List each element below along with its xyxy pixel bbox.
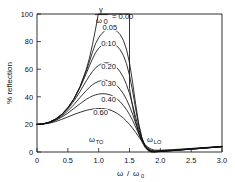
- x-tick-label: 2.0: [155, 156, 165, 165]
- y-axis-ticks: [37, 14, 41, 152]
- x-axis-tick-labels: 00.51.01.52.02.53.0: [35, 156, 227, 165]
- x-tick-label: 3.0: [217, 156, 227, 165]
- omega-to-symbol: ω: [89, 135, 95, 144]
- curve-label-0-30: 0.30: [101, 79, 116, 88]
- legend-equals-value: = 0.00: [112, 12, 133, 21]
- curve-0-40: [37, 94, 222, 151]
- curve-label-0-10: 0.10: [101, 39, 116, 48]
- curve-0-00: [37, 14, 222, 152]
- curve-label-0-60: 0.60: [93, 108, 108, 117]
- omega-lo-subscript: LO: [154, 139, 162, 145]
- y-axis-label-text: % reflection: [5, 62, 14, 104]
- omega-to-annotation: ω TO: [89, 135, 104, 145]
- y-tick-label: 60: [25, 65, 33, 74]
- x-axis-label-denominator-subscript: 0: [141, 173, 144, 179]
- x-tick-label: 1.0: [94, 156, 104, 165]
- legend-denominator-subscript: 0: [103, 17, 107, 26]
- omega-lo-annotation: ω LO: [147, 135, 162, 145]
- reflectivity-figure: 020406080100 00.51.01.52.02.53.0 0.000.0…: [0, 0, 235, 182]
- omega-to-subscript: TO: [96, 139, 104, 145]
- curve-label-0-00: 0.00: [136, 0, 151, 2]
- data-curves: [37, 14, 222, 152]
- y-tick-label: 80: [25, 37, 33, 46]
- plot-canvas: 020406080100 00.51.01.52.02.53.0 0.000.0…: [0, 0, 235, 182]
- x-tick-label: 1.5: [124, 156, 134, 165]
- x-axis-label-denominator: ω: [133, 169, 139, 178]
- x-axis-label-separator: /: [127, 169, 130, 178]
- omega-lo-symbol: ω: [147, 135, 153, 144]
- x-tick-label: 0.5: [63, 156, 73, 165]
- y-tick-label: 100: [21, 10, 33, 19]
- curve-label-0-40: 0.40: [101, 95, 116, 104]
- x-axis-label-numerator: ω: [117, 169, 123, 178]
- y-axis-label: % reflection: [5, 62, 14, 104]
- legend-numerator: γ: [99, 5, 103, 14]
- y-tick-label: 0: [29, 148, 33, 157]
- curve-label-0-20: 0.20: [101, 62, 116, 71]
- x-tick-label: 0: [35, 156, 39, 165]
- x-tick-label: 2.5: [186, 156, 196, 165]
- legend-denominator: ω: [96, 16, 102, 25]
- y-axis-tick-labels: 020406080100: [21, 10, 33, 157]
- y-tick-label: 40: [25, 93, 33, 102]
- x-axis-label: ω / ω 0: [117, 169, 144, 179]
- y-tick-label: 20: [25, 120, 33, 129]
